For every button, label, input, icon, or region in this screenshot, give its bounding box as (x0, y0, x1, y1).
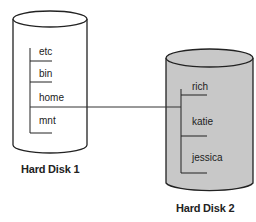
dir-label-rich: rich (192, 81, 208, 92)
dir-label-bin: bin (39, 68, 52, 79)
dir-label-home: home (39, 92, 64, 103)
dir-label-mnt: mnt (39, 115, 56, 126)
hard-disk-2-caption: Hard Disk 2 (176, 202, 234, 214)
dir-label-katie: katie (192, 116, 213, 127)
dir-label-etc: etc (39, 46, 52, 57)
hard-disk-1-caption: Hard Disk 1 (21, 163, 79, 175)
dir-label-jessica: jessica (192, 152, 223, 163)
diagram-canvas (0, 0, 256, 222)
